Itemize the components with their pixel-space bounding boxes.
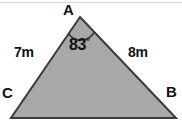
degree-symbol: ° [86,36,89,46]
triangle-svg [0,0,182,123]
vertex-label-c: C [2,85,13,100]
angle-value: 83 [69,36,86,53]
side-label-ca: 7m [14,45,34,59]
triangle-shape [11,17,176,118]
angle-measure-label-a: 83° [69,37,90,53]
vertex-label-a: A [63,2,74,17]
triangle-figure: A B C 7m 8m 83° [0,0,182,123]
vertex-label-b: B [166,84,177,99]
side-label-ab: 8m [128,45,148,59]
